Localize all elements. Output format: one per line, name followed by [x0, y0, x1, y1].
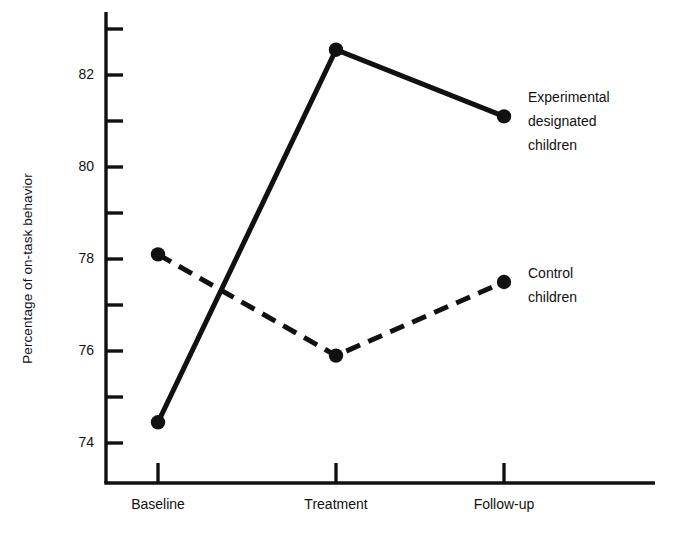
x-category-label-baseline: Baseline: [98, 496, 218, 512]
series-label-control-line2: children: [528, 286, 577, 308]
series-label-control-line1: Control: [528, 262, 573, 284]
series-label-experimental-line3: children: [528, 134, 577, 156]
y-tick-label-80: 80: [60, 158, 94, 174]
y-tick-label-78: 78: [60, 250, 94, 266]
y-axis-title: Percentage of on-task behavior: [14, 0, 42, 537]
y-tick-label-74: 74: [60, 434, 94, 450]
plot-area: [0, 0, 678, 537]
y-tick-label-76: 76: [60, 342, 94, 358]
y-axis-major-ticks: [106, 75, 123, 443]
x-category-label-followup: Follow-up: [444, 496, 564, 512]
series-label-experimental-line1: Experimental: [528, 86, 610, 108]
y-tick-label-82: 82: [60, 66, 94, 82]
x-axis-ticks: [158, 463, 504, 483]
series-line-control: [158, 254, 504, 355]
chart-figure: Percentage of on-task behavior 82 80 78 …: [0, 0, 678, 537]
series-label-experimental-line2: designated: [528, 110, 597, 132]
series-markers-experimental: [151, 43, 511, 430]
y-axis-minor-ticks: [106, 29, 123, 397]
x-category-label-treatment: Treatment: [276, 496, 396, 512]
series-line-experimental: [158, 50, 504, 423]
